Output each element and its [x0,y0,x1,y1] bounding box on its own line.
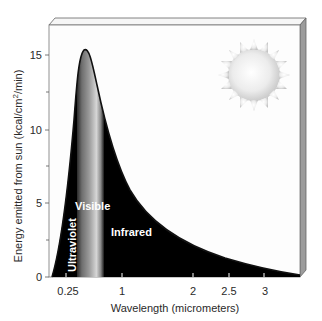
y-tick-0: 0 [36,271,42,283]
x-tick-2.5: 2.5 [221,285,236,297]
y-axis-title: Energy emitted from sun (kcal/cm2/min) [11,70,24,263]
solar-spectrum-chart: 0 5 10 15 0.25 1 2 2.5 3 Wavelength (mic… [0,0,322,321]
label-visible: Visible [75,200,110,212]
frame-side-bevel [300,18,306,277]
y-axis [45,55,49,277]
frame-top-bevel [49,18,306,25]
label-infrared: Infrared [111,226,152,238]
x-axis-title: Wavelength (micrometers) [111,302,240,314]
y-tick-15: 15 [30,49,42,61]
label-ultraviolet: Ultraviolet [66,218,78,272]
x-tick-3: 3 [262,285,268,297]
x-tick-0.25: 0.25 [57,285,78,297]
x-tick-2: 2 [190,285,196,297]
y-tick-5: 5 [36,197,42,209]
y-tick-10: 10 [30,124,42,136]
x-tick-1: 1 [119,285,125,297]
